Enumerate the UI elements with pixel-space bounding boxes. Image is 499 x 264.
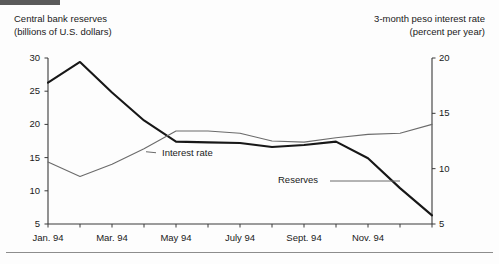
annotation-interest-rate: Interest rate [162, 147, 213, 158]
x-tick-label: July 94 [212, 232, 268, 243]
plot-area [0, 0, 499, 264]
left-tick-15: 15 [18, 152, 40, 163]
axis-lines [48, 58, 432, 224]
right-tick-15: 15 [439, 107, 461, 118]
x-tick-label: Nov. 94 [340, 232, 396, 243]
left-tick-25: 25 [18, 85, 40, 96]
right-tick-20: 20 [439, 52, 461, 63]
left-tick-5: 5 [18, 218, 40, 229]
series-lines [48, 62, 432, 215]
footer-rule [6, 252, 493, 253]
left-tick-10: 10 [18, 185, 40, 196]
annotation-reserves: Reserves [278, 174, 318, 185]
left-tick-30: 30 [18, 52, 40, 63]
x-tick-label: May 94 [148, 232, 204, 243]
right-tick-10: 10 [439, 163, 461, 174]
x-tick-label: Jan. 94 [20, 232, 76, 243]
left-tick-20: 20 [18, 118, 40, 129]
chart-figure: Central bank reserves (billions of U.S. … [0, 0, 499, 264]
right-tick-5: 5 [439, 218, 461, 229]
x-tick-label: Mar. 94 [84, 232, 140, 243]
x-tick-label: Sept. 94 [276, 232, 332, 243]
